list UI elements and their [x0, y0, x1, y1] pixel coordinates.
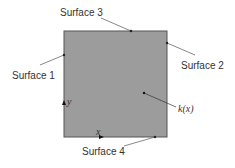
- diagram-canvas: [0, 0, 235, 168]
- square-domain: [64, 31, 167, 137]
- label-y-axis: y: [67, 96, 71, 107]
- leader-surface-3: [101, 18, 131, 31]
- leader-surface-2: [167, 43, 195, 55]
- leader-surface-1: [40, 55, 64, 65]
- leader-surface-4: [124, 137, 155, 146]
- label-surface-3: Surface 3: [60, 7, 103, 18]
- label-x-axis: x: [96, 126, 100, 137]
- label-surface-4: Surface 4: [82, 146, 125, 157]
- label-surface-2: Surface 2: [181, 60, 224, 71]
- label-surface-1: Surface 1: [12, 70, 55, 81]
- label-conductivity: k(x): [178, 103, 194, 114]
